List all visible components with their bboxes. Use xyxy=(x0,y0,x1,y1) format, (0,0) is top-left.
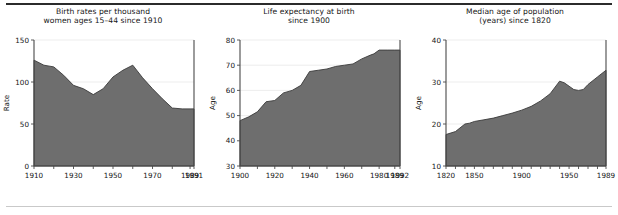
x-tick-label: 1900 xyxy=(513,171,532,180)
x-tick-label: 1850 xyxy=(465,171,484,180)
y-tick-label: 20 xyxy=(432,120,442,129)
x-tick-label: 1940 xyxy=(300,171,319,180)
y-tick-label: 70 xyxy=(226,61,236,70)
bottom-divider-rule xyxy=(6,206,612,207)
chart-panel-median-age: Median age of population (years) since 1… xyxy=(412,7,618,197)
y-tick-label: 40 xyxy=(226,136,236,145)
y-tick-label: 60 xyxy=(226,86,236,95)
y-tick-label: 150 xyxy=(15,36,29,45)
y-tick-label: 30 xyxy=(432,78,442,87)
chart-panel-life-expectancy: Life expectancy at birth since 1900 3040… xyxy=(206,7,412,197)
x-tick-label: 1930 xyxy=(64,171,83,180)
x-tick-label: 1960 xyxy=(335,171,354,180)
plot-area-birth-rates: 050100150191019301950197019891991Rate xyxy=(0,32,206,192)
chart-panels-row: Birth rates per thousand women ages 15–4… xyxy=(0,7,618,197)
area-series xyxy=(446,70,606,166)
y-tick-label: 80 xyxy=(226,36,236,45)
y-tick-label: 30 xyxy=(226,162,236,171)
plot-area-median-age: 1020304018201850190019501989Age xyxy=(412,32,618,192)
area-chart-birth-rates: 050100150191019301950197019891991Rate xyxy=(0,32,206,192)
y-tick-label: 50 xyxy=(226,111,236,120)
chart-title-life-expectancy: Life expectancy at birth since 1900 xyxy=(206,7,412,26)
x-tick-label: 1910 xyxy=(25,171,44,180)
y-axis-title: Age xyxy=(208,95,217,109)
area-chart-life-expectancy: 3040506070801900192019401960198019891992… xyxy=(206,32,412,192)
x-tick-label: 1992 xyxy=(391,171,409,180)
chart-panel-birth-rates: Birth rates per thousand women ages 15–4… xyxy=(0,7,206,197)
infographic-figure: Birth rates per thousand women ages 15–4… xyxy=(0,0,618,215)
x-tick-label: 1970 xyxy=(143,171,162,180)
x-tick-label: 1950 xyxy=(104,171,123,180)
y-tick-label: 40 xyxy=(432,36,442,45)
x-tick-label: 1820 xyxy=(437,171,456,180)
area-series xyxy=(240,50,400,166)
x-tick-label: 1920 xyxy=(266,171,285,180)
area-series xyxy=(34,60,194,166)
x-tick-label: 1900 xyxy=(231,171,250,180)
area-chart-median-age: 1020304018201850190019501989Age xyxy=(412,32,618,192)
top-divider-rule xyxy=(6,3,612,5)
x-tick-label: 1950 xyxy=(560,171,579,180)
x-tick-label: 1991 xyxy=(185,171,203,180)
x-tick-label: 1989 xyxy=(597,171,616,180)
y-axis-title: Age xyxy=(414,95,423,109)
y-tick-label: 50 xyxy=(20,120,30,129)
y-tick-label: 0 xyxy=(24,162,29,171)
chart-title-median-age: Median age of population (years) since 1… xyxy=(412,7,618,26)
y-tick-label: 10 xyxy=(432,162,442,171)
chart-title-birth-rates: Birth rates per thousand women ages 15–4… xyxy=(0,7,206,26)
plot-area-life-expectancy: 3040506070801900192019401960198019891992… xyxy=(206,32,412,192)
y-axis-title: Rate xyxy=(2,94,11,111)
y-tick-label: 100 xyxy=(15,78,29,87)
